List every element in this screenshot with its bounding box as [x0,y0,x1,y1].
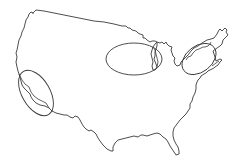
us-map-svg [0,0,243,163]
california-coast-line [19,74,49,108]
us-outline [16,10,228,155]
us-map [0,0,243,163]
northeast-region-ellipse [176,37,222,81]
